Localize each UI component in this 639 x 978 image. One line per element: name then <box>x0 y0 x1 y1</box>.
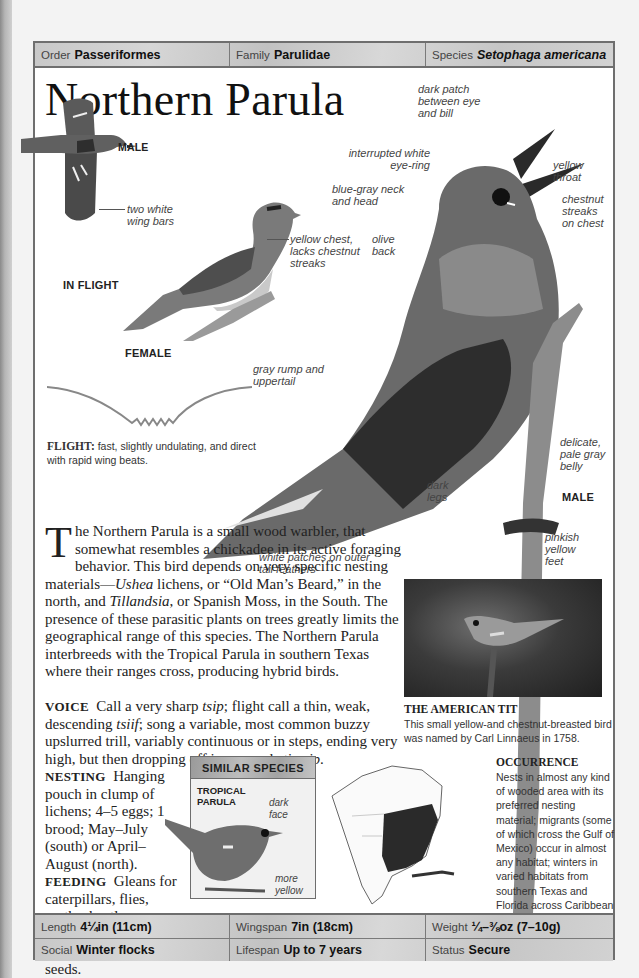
annotation-dark-legs: dark legs <box>427 479 457 503</box>
weight-cell: Weight ¼–⅜oz (7–10g) <box>426 915 613 938</box>
annotation-feet: pinkish yellow feet <box>545 531 595 567</box>
similar-name-line-2: PARULA <box>197 796 246 807</box>
flight-caption: FLIGHT: fast, slightly undulating, and d… <box>47 439 267 467</box>
status-value: Secure <box>469 943 511 957</box>
similar-species-name: TROPICAL PARULA <box>197 785 246 807</box>
voice-text-1: Call a very sharp <box>96 698 202 714</box>
species-value: Setophaga americana <box>477 48 606 62</box>
order-cell: Order Passeriformes <box>35 43 230 66</box>
species-cell: Species Setophaga americana <box>426 43 613 66</box>
in-flight-caption: IN FLIGHT <box>63 279 119 291</box>
voice-label: VOICE <box>45 699 89 714</box>
species-label: Species <box>432 49 473 61</box>
order-label: Order <box>41 49 70 61</box>
annotation-chestnut-streaks: chestnut streaks on chest <box>562 193 612 229</box>
wingspan-value: 7in (18cm) <box>291 920 353 934</box>
nesting-label: NESTING <box>45 769 106 784</box>
lifespan-label: Lifespan <box>236 944 279 956</box>
taxonomy-band: Order Passeriformes Family Parulidae Spe… <box>35 43 613 68</box>
photo-bird-silhouette <box>404 579 602 697</box>
social-value: Winter flocks <box>76 943 154 957</box>
in-flight-male-label: MALE <box>118 141 149 153</box>
female-caption: FEMALE <box>125 347 171 359</box>
stats-row-1: Length 4¼in (11cm) Wingspan 7in (18cm) W… <box>35 915 613 938</box>
annotation-olive-back: olive back <box>372 233 408 257</box>
flight-pattern-diagram <box>47 383 267 433</box>
tropical-parula-illustration <box>165 809 305 899</box>
length-value: 4¼in (11cm) <box>80 920 152 934</box>
family-label: Family <box>236 49 270 61</box>
length-cell: Length 4¼in (11cm) <box>35 915 230 938</box>
lifespan-value: Up to 7 years <box>283 943 362 957</box>
order-value: Passeriformes <box>74 48 160 62</box>
lifespan-cell: Lifespan Up to 7 years <box>230 939 426 961</box>
annotation-yellow-throat: yellow throat <box>553 159 603 183</box>
range-map <box>322 756 467 906</box>
annotation-blue-gray-neck: blue-gray neck and head <box>332 183 412 207</box>
similar-species-box: SIMILAR SPECIES TROPICAL PARULA dark fac… <box>190 756 316 899</box>
flight-label: FLIGHT: <box>47 440 95 452</box>
weight-value: ¼–⅜oz (7–10g) <box>472 920 561 934</box>
dropcap: T <box>45 525 72 561</box>
photo-caption-title: THE AMERICAN TIT <box>404 703 518 715</box>
weight-label: Weight <box>432 921 468 933</box>
length-label: Length <box>41 921 76 933</box>
voice-tsip: tsip <box>202 698 224 714</box>
wingspan-cell: Wingspan 7in (18cm) <box>230 915 426 938</box>
photo-caption-text: This small yellow-and chestnut-breasted … <box>404 717 614 745</box>
annotation-dark-patch: dark patch between eye and bill <box>418 83 498 119</box>
status-cell: Status Secure <box>426 939 613 961</box>
stats-row-2: Social Winter flocks Lifespan Up to 7 ye… <box>35 938 613 961</box>
social-cell: Social Winter flocks <box>35 939 230 961</box>
stats-bands: Length 4¼in (11cm) Wingspan 7in (18cm) W… <box>35 913 613 961</box>
occurrence-title: OCCURRENCE <box>496 756 578 768</box>
male-caption: MALE <box>562 491 594 503</box>
species-description: The Northern Parula is a small wood warb… <box>45 523 405 681</box>
social-label: Social <box>41 944 72 956</box>
similar-name-line-1: TROPICAL <box>197 785 246 796</box>
similar-species-heading: SIMILAR SPECIES <box>191 757 315 779</box>
voice-tsiif: tsiif <box>116 716 139 732</box>
wingspan-label: Wingspan <box>236 921 287 933</box>
leader-line <box>99 209 125 210</box>
family-cell: Family Parulidae <box>230 43 426 66</box>
status-label: Status <box>432 944 465 956</box>
tillandsia-term: Tillandsia <box>110 593 170 609</box>
annotation-eye-ring: interrupted white eye-ring <box>340 147 430 171</box>
species-card: Order Passeriformes Family Parulidae Spe… <box>33 41 615 960</box>
family-value: Parulidae <box>274 48 330 62</box>
page-gutter <box>0 0 12 978</box>
annotation-pale-belly: delicate, pale gray belly <box>560 436 612 472</box>
american-tit-photo <box>404 579 602 697</box>
feeding-label: FEEDING <box>45 874 106 889</box>
ushea-term: Ushea <box>115 576 153 592</box>
